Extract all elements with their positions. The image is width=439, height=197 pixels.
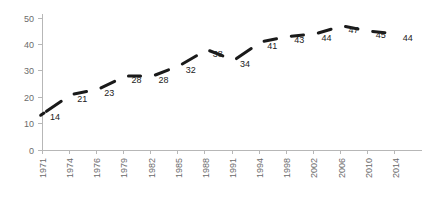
y-tick-label: 30: [24, 66, 34, 76]
x-tick-label: 1974: [65, 158, 75, 178]
data-point-label: 28: [159, 75, 169, 85]
x-axis: 1971197419761979198219851988199119941998…: [38, 150, 422, 178]
series-start-stub: [41, 113, 44, 115]
data-point-label: 44: [321, 33, 331, 43]
series-segment: [101, 81, 115, 88]
data-point-label: 21: [77, 94, 87, 104]
data-labels: 1421232828323834414344474544: [50, 25, 413, 122]
series-segment: [46, 101, 61, 111]
line-chart: 01020304050 1971197419761979198219851988…: [0, 0, 439, 197]
series-segment: [236, 49, 251, 59]
data-point-label: 34: [240, 59, 250, 69]
x-tick-label: 1979: [119, 158, 129, 178]
data-point-label: 23: [104, 88, 114, 98]
data-point-label: 28: [131, 75, 141, 85]
data-point-label: 32: [186, 65, 196, 75]
series-segment: [182, 56, 196, 64]
x-tick-label: 1985: [174, 158, 184, 178]
data-series: [41, 26, 385, 115]
x-tick-label: 2014: [391, 158, 401, 178]
data-point-label: 41: [267, 41, 277, 51]
x-tick-label: 1998: [282, 158, 292, 178]
x-tick-label: 1976: [92, 158, 102, 178]
x-tick-label: 2002: [309, 158, 319, 178]
x-tick-label: 1971: [38, 158, 48, 178]
x-tick-label: 1994: [255, 158, 265, 178]
y-tick-label: 10: [24, 119, 34, 129]
data-point-label: 47: [349, 25, 359, 35]
y-tick-label: 40: [24, 40, 34, 50]
x-tick-label: 2010: [364, 158, 374, 178]
x-tick-label: 2006: [337, 158, 347, 178]
y-tick-label: 20: [24, 93, 34, 103]
data-point-label: 45: [376, 30, 386, 40]
data-point-label: 38: [213, 49, 223, 59]
data-point-label: 44: [403, 33, 413, 43]
x-tick-label: 1991: [228, 158, 238, 178]
y-tick-label: 50: [24, 14, 34, 24]
chart-plot-area: 01020304050 1971197419761979198219851988…: [0, 0, 439, 197]
data-point-label: 14: [50, 112, 60, 122]
x-tick-label: 1988: [201, 158, 211, 178]
x-tick-label: 1982: [147, 158, 157, 178]
y-axis: 01020304050: [24, 14, 42, 156]
y-tick-label: 0: [29, 146, 34, 156]
data-point-label: 43: [294, 35, 304, 45]
